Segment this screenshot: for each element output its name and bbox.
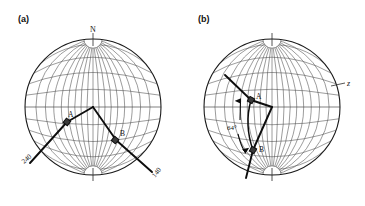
figure-background: [0, 0, 365, 206]
stereonet-figure: (a) N A B 240 140 (b): [0, 0, 365, 206]
panel-a-label: (a): [18, 14, 29, 24]
panel-b-label: (b): [198, 14, 210, 24]
point-b-label: B: [259, 145, 264, 154]
point-b-label: B: [120, 129, 125, 138]
angle-64-label: 64°: [227, 124, 237, 132]
point-a-label: A: [256, 92, 262, 101]
panel-a-north-label: N: [90, 25, 96, 34]
angle-64-arrow-up: [240, 101, 241, 120]
point-a-label: A: [68, 110, 74, 119]
